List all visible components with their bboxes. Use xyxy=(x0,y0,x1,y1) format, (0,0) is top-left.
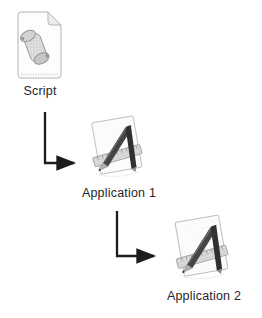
arrow-app1-to-app2 xyxy=(117,211,154,256)
arrow-script-to-app1 xyxy=(45,112,74,163)
script-label: Script xyxy=(0,84,80,98)
application-2-icon xyxy=(175,215,228,279)
application-1-label: Application 1 xyxy=(59,186,179,200)
application-2-label: Application 2 xyxy=(144,289,262,303)
diagram-graphics xyxy=(0,0,262,318)
script-file-icon xyxy=(18,12,61,78)
application-1-icon xyxy=(92,116,143,177)
diagram-canvas: Script Application 1 Application 2 xyxy=(0,0,262,318)
